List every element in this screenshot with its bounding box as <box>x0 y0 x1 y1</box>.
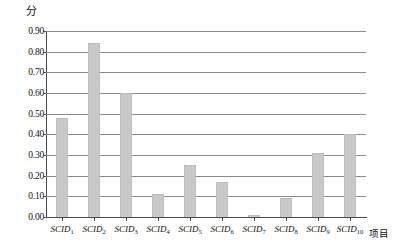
y-axis-tick-label: 0.40 <box>28 129 44 139</box>
bar <box>312 153 324 217</box>
bar-series <box>46 31 366 217</box>
x-axis-tick-mark <box>158 218 159 221</box>
bar <box>344 134 356 217</box>
bar <box>280 198 292 217</box>
bar-chart: 分 项目 0.000.100.200.300.400.500.600.700.8… <box>0 0 401 249</box>
x-axis-tick-mark <box>94 218 95 221</box>
x-axis-tick-mark <box>318 218 319 221</box>
plot-area <box>46 31 366 217</box>
bar <box>248 215 260 217</box>
bar <box>56 118 68 217</box>
x-axis-tick-mark <box>254 218 255 221</box>
x-axis-tick-label: SCID10 <box>337 224 364 235</box>
y-axis-tick-label: 0.50 <box>28 109 44 119</box>
x-axis-tick-label: SCID2 <box>82 224 105 235</box>
x-axis-tick-label: SCID7 <box>242 224 265 235</box>
x-axis-tick-mark <box>126 218 127 221</box>
y-axis-title: 分 <box>26 6 37 18</box>
y-axis-tick-label: 0.60 <box>28 88 44 98</box>
bar <box>120 93 132 217</box>
y-axis-tick-label: 0.20 <box>28 171 44 181</box>
x-axis-tick-mark <box>222 218 223 221</box>
x-axis-title: 项目 <box>369 228 389 239</box>
bar <box>88 43 100 217</box>
x-axis-tick-label: SCID3 <box>114 224 137 235</box>
x-axis-tick-mark <box>190 218 191 221</box>
bar <box>216 182 228 217</box>
x-axis-tick-label: SCID4 <box>146 224 169 235</box>
y-axis-tick-label: 0.00 <box>28 212 44 222</box>
bar <box>152 194 164 217</box>
x-axis-tick-label: SCID1 <box>50 224 73 235</box>
x-axis-tick-label: SCID5 <box>178 224 201 235</box>
y-axis-tick-label: 0.90 <box>28 26 44 36</box>
y-axis-tick-label: 0.80 <box>28 47 44 57</box>
y-axis-tick-label: 0.70 <box>28 67 44 77</box>
x-axis-tick-mark <box>350 218 351 221</box>
x-axis-tick-label: SCID9 <box>306 224 329 235</box>
y-axis-tick-label: 0.30 <box>28 150 44 160</box>
bar <box>184 165 196 217</box>
x-axis-tick-label: SCID6 <box>210 224 233 235</box>
y-axis-tick-mark <box>43 217 46 218</box>
x-axis-tick-label: SCID8 <box>274 224 297 235</box>
x-axis-tick-mark <box>62 218 63 221</box>
x-axis-tick-mark <box>286 218 287 221</box>
y-axis-tick-label: 0.10 <box>28 191 44 201</box>
